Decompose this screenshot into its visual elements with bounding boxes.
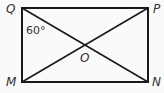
- vertex-label-q: Q: [6, 3, 15, 15]
- vertex-label-m: M: [6, 76, 16, 88]
- angle-label: 60°: [26, 25, 46, 36]
- center-label-o: O: [80, 52, 89, 64]
- diagram-lines: [0, 0, 164, 93]
- vertex-label-n: N: [152, 76, 161, 88]
- vertex-label-p: P: [153, 3, 160, 15]
- rectangle-diagram: Q P M N O 60°: [0, 0, 164, 93]
